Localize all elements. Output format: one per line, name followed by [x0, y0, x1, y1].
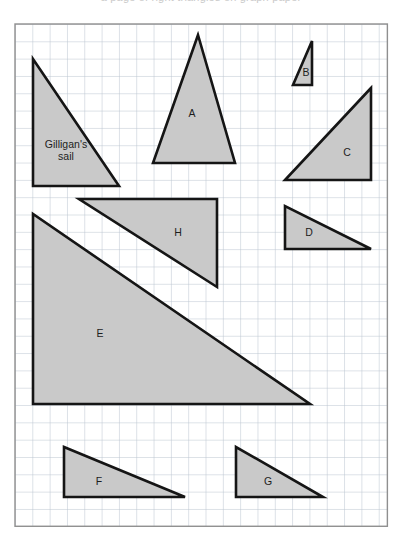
- worksheet-canvas: [0, 0, 402, 549]
- triangles-worksheet: a page of right triangles on graph paper…: [0, 0, 402, 549]
